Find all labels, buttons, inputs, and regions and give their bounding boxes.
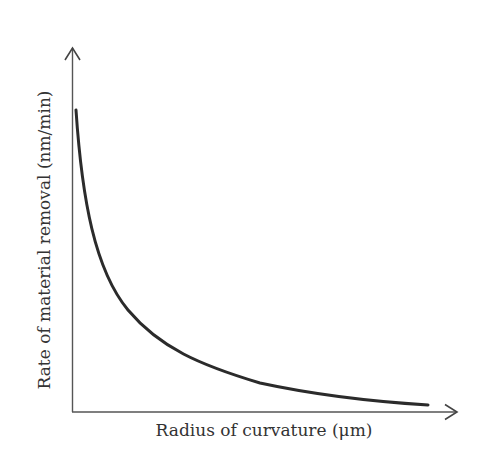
x-axis-label: Radius of curvature (μm): [72, 420, 456, 440]
y-axis: [65, 48, 80, 412]
chart-figure: Rate of material removal (nm/min) Radius…: [0, 0, 481, 469]
chart-plot: [0, 0, 481, 469]
y-axis-label: Rate of material removal (nm/min): [34, 91, 54, 390]
x-axis: [72, 405, 457, 420]
removal-rate-curve: [76, 110, 428, 405]
